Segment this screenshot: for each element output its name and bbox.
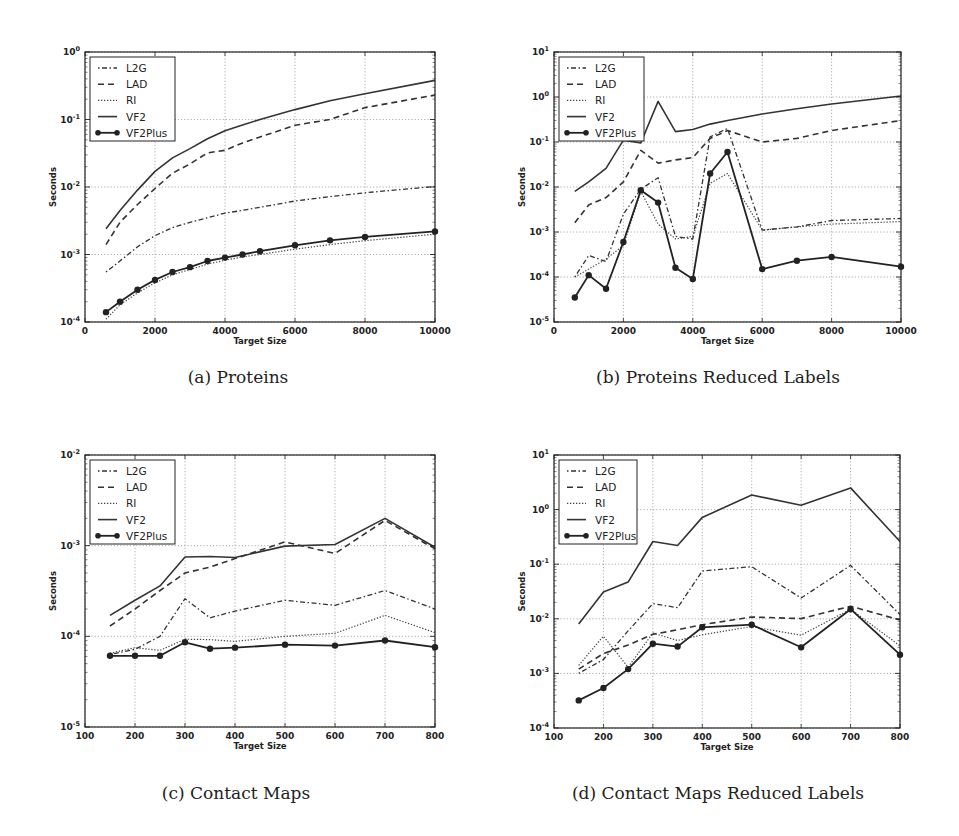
legend-label-l2g: L2G (126, 62, 147, 74)
legend-marker (564, 130, 570, 136)
data-point-marker (759, 266, 765, 272)
y-tick-label: 10-4 (60, 629, 80, 641)
x-tick-label: 600 (326, 731, 345, 741)
chart-c: 10020030040050060070080010-510-410-310-2… (48, 448, 444, 751)
y-tick-label: 101 (532, 448, 550, 460)
y-axis-label: Seconds (48, 167, 58, 207)
legend-label-vf2: VF2 (126, 514, 146, 526)
data-point-marker (699, 624, 705, 630)
y-tick-label: 10-5 (529, 315, 549, 327)
data-point-marker (282, 641, 288, 647)
legend-label-vf2: VF2 (595, 514, 615, 526)
data-point-marker (603, 285, 609, 291)
x-tick-label: 200 (594, 732, 613, 742)
data-point-marker (847, 606, 853, 612)
y-tick-label: 10-4 (60, 315, 80, 327)
y-tick-label: 10-2 (60, 180, 80, 192)
legend-marker (95, 533, 101, 539)
data-point-marker (169, 269, 175, 275)
legend-label-lad: LAD (595, 481, 616, 493)
x-tick-label: 10000 (885, 326, 916, 336)
y-tick-label: 10-4 (529, 270, 549, 282)
y-tick-label: 10-1 (529, 557, 549, 569)
legend-marker (583, 130, 589, 136)
legend-label-l2g: L2G (595, 465, 616, 477)
y-tick-label: 101 (532, 45, 550, 57)
chart-a: 020004000600080001000010-410-310-210-110… (48, 45, 451, 346)
y-tick-label: 10-3 (60, 248, 80, 260)
x-tick-label: 100 (545, 732, 564, 742)
data-point-marker (182, 639, 188, 645)
legend-label-vf2plus: VF2Plus (595, 530, 636, 542)
legend-label-lad: LAD (595, 78, 616, 90)
data-point-marker (187, 264, 193, 270)
caption-a: (a) Proteins (188, 367, 289, 387)
series-line-vf2plus (579, 609, 900, 700)
data-point-marker (572, 294, 578, 300)
x-tick-label: 600 (792, 732, 811, 742)
data-point-marker (152, 277, 158, 283)
data-point-marker (655, 199, 661, 205)
data-point-marker (620, 239, 626, 245)
y-axis-label: Seconds (517, 572, 527, 612)
legend-label-lad: LAD (126, 481, 147, 493)
caption-b: (b) Proteins Reduced Labels (596, 367, 840, 387)
x-tick-label: 200 (126, 731, 145, 741)
y-tick-label: 100 (532, 503, 550, 515)
legend-label-ri: RI (595, 497, 605, 509)
series-line-ri (579, 609, 900, 667)
x-tick-label: 2000 (611, 326, 636, 336)
chart-d: 10020030040050060070080010-410-310-210-1… (517, 448, 909, 752)
legend-marker (583, 533, 589, 539)
y-tick-label: 100 (63, 45, 81, 57)
data-point-marker (103, 309, 109, 315)
x-axis-label: Target Size (701, 336, 754, 346)
data-point-marker (257, 248, 263, 254)
x-tick-label: 0 (551, 326, 557, 336)
x-tick-label: 100 (76, 731, 95, 741)
x-tick-label: 300 (643, 732, 662, 742)
data-point-marker (292, 242, 298, 248)
data-point-marker (239, 251, 245, 257)
y-axis-label: Seconds (517, 167, 527, 207)
data-point-marker (674, 643, 680, 649)
x-tick-label: 2000 (142, 326, 167, 336)
legend-label-l2g: L2G (595, 62, 616, 74)
legend-label-l2g: L2G (126, 465, 147, 477)
x-tick-label: 4000 (212, 326, 237, 336)
legend-label-vf2plus: VF2Plus (595, 127, 636, 139)
data-point-marker (132, 653, 138, 659)
data-point-marker (362, 234, 368, 240)
x-tick-label: 6000 (750, 326, 775, 336)
y-tick-label: 10-1 (529, 135, 549, 147)
legend-marker (564, 533, 570, 539)
legend-label-vf2: VF2 (126, 111, 146, 123)
data-point-marker (576, 697, 582, 703)
data-point-marker (107, 653, 113, 659)
data-point-marker (798, 644, 804, 650)
legend-marker (95, 130, 101, 136)
x-axis-label: Target Size (233, 741, 286, 751)
legend-label-ri: RI (126, 94, 136, 106)
data-point-marker (157, 653, 163, 659)
data-point-marker (117, 298, 123, 304)
data-point-marker (638, 187, 644, 193)
chart-b: 020004000600080001000010-510-410-310-210… (517, 45, 917, 346)
x-tick-label: 400 (693, 732, 712, 742)
y-tick-label: 10-3 (529, 666, 549, 678)
data-point-marker (207, 646, 213, 652)
x-tick-label: 4000 (680, 326, 705, 336)
data-point-marker (650, 640, 656, 646)
data-point-marker (724, 149, 730, 155)
x-tick-label: 700 (841, 732, 860, 742)
x-tick-label: 8000 (819, 326, 844, 336)
series-line-lad (579, 606, 900, 669)
y-tick-label: 10-2 (529, 180, 549, 192)
x-tick-label: 6000 (282, 326, 307, 336)
data-point-marker (625, 666, 631, 672)
caption-d: (d) Contact Maps Reduced Labels (572, 783, 864, 803)
x-tick-label: 400 (226, 731, 245, 741)
x-tick-label: 0 (82, 326, 88, 336)
figure-canvas: 020004000600080001000010-410-310-210-110… (0, 0, 959, 836)
x-tick-label: 800 (891, 732, 910, 742)
